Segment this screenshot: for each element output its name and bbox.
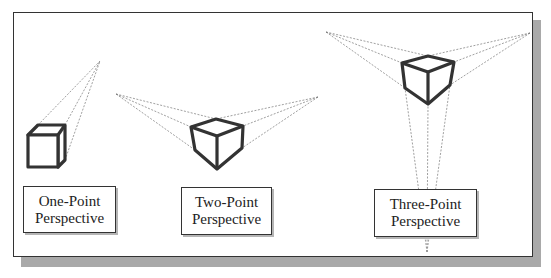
label-two-point-perspective: Two-Point Perspective [181, 187, 272, 235]
label-line-1: Three-Point [390, 196, 462, 213]
three-point-cube [402, 56, 454, 104]
label-three-point-perspective: Three-Point Perspective [374, 189, 477, 237]
one-point-cube [28, 125, 65, 167]
label-line-2: Perspective [35, 210, 104, 227]
label-line-1: One-Point [39, 193, 101, 210]
label-one-point-perspective: One-Point Perspective [23, 186, 116, 233]
label-line-2: Perspective [192, 211, 261, 228]
two-point-cube [191, 119, 243, 169]
label-line-2: Perspective [391, 213, 460, 230]
label-line-1: Two-Point [195, 194, 258, 211]
